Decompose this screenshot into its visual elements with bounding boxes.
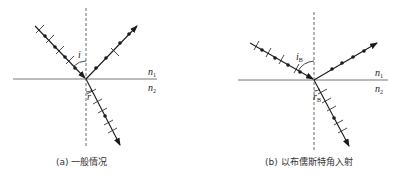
brewster-angle-diagram: i r n1 n2 (a) 一般情况 (0, 0, 395, 181)
figure-a: i r n1 n2 (a) 一般情况 (13, 8, 157, 167)
reflected-ray (86, 26, 137, 79)
caption-a: (a) 一般情况 (56, 156, 107, 167)
refracted-ray (86, 79, 120, 145)
medium1-label: n1 (375, 67, 383, 79)
incident-angle-arc (74, 61, 86, 66)
incident-angle-label: i (78, 49, 81, 60)
medium2-label: n2 (148, 82, 156, 94)
figure-b: iB rB n1 n2 (b) 以布儒斯特角入射 (238, 12, 388, 167)
medium1-label: n1 (148, 66, 156, 78)
caption-b: (b) 以布儒斯特角入射 (265, 156, 353, 167)
brewster-angle-label: iB (296, 51, 303, 63)
incident-ray (250, 41, 313, 79)
reflected-ray (314, 43, 377, 80)
refraction-angle-label: r (87, 91, 91, 102)
medium2-label: n2 (375, 83, 383, 95)
